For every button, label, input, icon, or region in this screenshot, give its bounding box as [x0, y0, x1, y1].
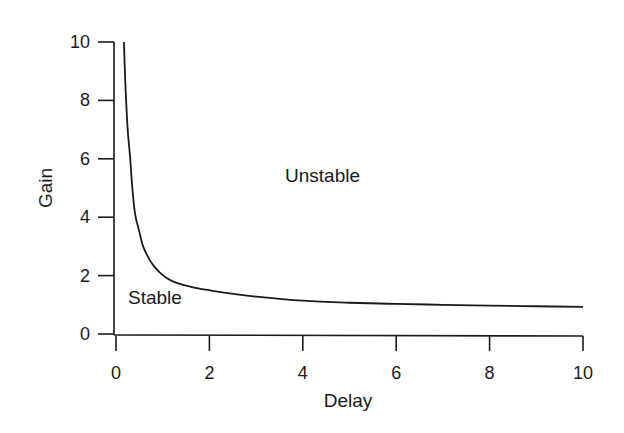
unstable-region-label: Unstable: [285, 165, 360, 186]
chart-canvas: 0246810 Gain 0246810 Delay Unstable Stab…: [0, 0, 624, 433]
x-axis-title: Delay: [324, 390, 373, 411]
y-tick-label: 8: [80, 90, 90, 110]
y-tick-label: 4: [80, 207, 90, 227]
x-axis: 0246810 Delay: [111, 335, 593, 411]
y-axis: 0246810 Gain: [35, 32, 114, 344]
x-axis-ticks: 0246810: [111, 336, 593, 383]
x-tick-label: 2: [204, 363, 214, 383]
x-tick-label: 4: [298, 363, 308, 383]
x-tick-label: 6: [391, 363, 401, 383]
y-tick-label: 2: [80, 266, 90, 286]
y-tick-label: 6: [80, 149, 90, 169]
y-axis-title: Gain: [35, 168, 56, 208]
x-tick-label: 8: [485, 363, 495, 383]
x-tick-label: 10: [573, 363, 593, 383]
y-axis-ticks: 0246810: [70, 32, 114, 344]
x-tick-label: 0: [111, 363, 121, 383]
stable-region-label: Stable: [128, 287, 182, 308]
y-tick-label: 10: [70, 32, 90, 52]
y-tick-label: 0: [80, 324, 90, 344]
